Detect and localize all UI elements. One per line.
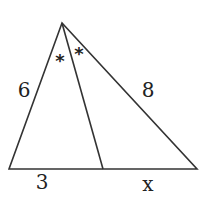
angle-mark-left: *	[55, 52, 64, 70]
base-left-segment-label: 3	[36, 172, 49, 192]
triangle-figure: * * 6 8 3 x	[0, 0, 214, 201]
base-right-segment-label: x	[142, 174, 153, 194]
left-side-label: 6	[18, 80, 31, 100]
right-side-label: 8	[142, 80, 155, 100]
triangle-drawing	[0, 0, 214, 201]
angle-mark-right: *	[74, 45, 83, 63]
outer-triangle	[9, 23, 197, 169]
